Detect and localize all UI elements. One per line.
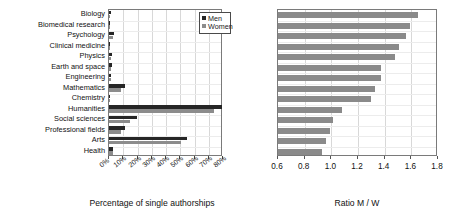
bar-group — [109, 42, 223, 53]
x-tick-label: 1.0 — [318, 162, 342, 171]
tick-mark — [384, 156, 385, 159]
bar-ratio — [278, 54, 395, 60]
bar-women — [109, 15, 110, 19]
category-label: Biomedical research — [0, 21, 105, 28]
x-tick-label: 1.2 — [345, 162, 369, 171]
bar-group — [109, 105, 223, 116]
chart-legend: Men Women — [199, 12, 231, 34]
category-label: Physics — [0, 52, 105, 59]
legend-label-women: Women — [208, 22, 233, 31]
left-chart-panel: BiologyBiomedical researchPsychologyClin… — [0, 0, 232, 221]
bar-ratio — [278, 86, 375, 92]
bar-group — [278, 42, 438, 53]
right-chart-panel: 0.60.81.01.21.41.61.8 Ratio M / W — [232, 0, 465, 221]
bar-women — [109, 57, 111, 61]
bar-women — [109, 88, 121, 92]
category-label: Professional fields — [0, 126, 105, 133]
tick-mark — [304, 156, 305, 159]
bar-group — [109, 115, 223, 126]
bar-ratio — [278, 75, 381, 81]
bar-group — [278, 31, 438, 42]
bar-ratio — [278, 12, 418, 18]
figure-two-panel-bar-charts: BiologyBiomedical researchPsychologyClin… — [0, 0, 465, 221]
category-axis-labels: BiologyBiomedical researchPsychologyClin… — [0, 9, 105, 156]
legend-item-women: Women — [202, 23, 230, 31]
bar-group — [278, 147, 438, 158]
bar-women — [109, 141, 181, 145]
bar-group — [109, 73, 223, 84]
category-label: Engineering — [0, 73, 105, 80]
bar-women — [109, 36, 113, 40]
bar-ratio — [278, 117, 333, 123]
bar-group — [278, 73, 438, 84]
bar-group — [109, 84, 223, 95]
category-label: Humanities — [0, 105, 105, 112]
bar-group — [278, 136, 438, 147]
x-tick-label: 1.4 — [372, 162, 396, 171]
bar-women — [109, 78, 111, 82]
bar-group — [278, 105, 438, 116]
bar-women — [109, 109, 214, 113]
bar-group — [278, 10, 438, 21]
bar-women — [109, 46, 110, 50]
category-label: Psychology — [0, 31, 105, 38]
category-label: Clinical medicine — [0, 42, 105, 49]
bar-group — [109, 136, 223, 147]
bar-ratio — [278, 23, 410, 29]
tick-mark — [410, 156, 411, 159]
x-tick-label: 0.8 — [292, 162, 316, 171]
bar-ratio — [278, 138, 326, 144]
bar-group — [278, 115, 438, 126]
bar-women — [109, 67, 111, 71]
bar-ratio — [278, 33, 406, 39]
bar-ratio — [278, 107, 342, 113]
bar-ratio — [278, 44, 399, 50]
tick-mark — [330, 156, 331, 159]
category-label: Earth and space — [0, 63, 105, 70]
right-plot-area — [277, 9, 437, 156]
bar-group — [109, 63, 223, 74]
tick-mark — [277, 156, 278, 159]
legend-swatch-women-icon — [202, 24, 206, 28]
bar-group — [109, 94, 223, 105]
x-tick-label: 1.6 — [398, 162, 422, 171]
legend-swatch-men-icon — [202, 16, 206, 20]
bar-women — [109, 151, 113, 155]
right-x-axis-title: Ratio M / W — [277, 198, 437, 208]
x-tick-label: 1.8 — [425, 162, 449, 171]
bar-women — [109, 99, 110, 103]
category-label: Health — [0, 147, 105, 154]
bar-women — [109, 25, 110, 29]
category-label: Biology — [0, 10, 105, 17]
bar-group — [109, 52, 223, 63]
bar-group — [278, 94, 438, 105]
left-x-axis-title: Percentage of single authorships — [72, 198, 232, 208]
tick-mark — [437, 156, 438, 159]
bar-group — [278, 126, 438, 137]
x-tick-label: 0.6 — [265, 162, 289, 171]
bar-group — [278, 63, 438, 74]
bar-ratio — [278, 96, 371, 102]
tick-mark — [357, 156, 358, 159]
bar-women — [109, 120, 130, 124]
category-label: Mathematics — [0, 84, 105, 91]
bar-group — [278, 21, 438, 32]
bar-group — [278, 84, 438, 95]
bar-group — [278, 52, 438, 63]
bar-women — [109, 130, 121, 134]
bar-ratio — [278, 128, 330, 134]
bar-ratio — [278, 149, 322, 155]
category-label: Social sciences — [0, 115, 105, 122]
bar-group — [109, 126, 223, 137]
category-label: Arts — [0, 136, 105, 143]
bar-ratio — [278, 65, 381, 71]
category-label: Chemistry — [0, 94, 105, 101]
